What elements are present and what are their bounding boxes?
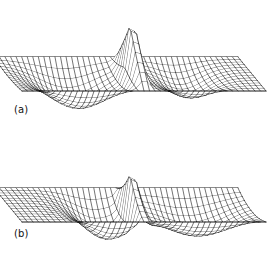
- panel-a-label: (a): [14, 104, 28, 115]
- surface-plot-a: [0, 0, 269, 126]
- panel-b-label: (b): [14, 228, 28, 239]
- panel-b: (b): [0, 127, 269, 253]
- figure-container: (a) (b): [0, 0, 269, 253]
- surface-plot-b: [0, 127, 269, 253]
- panel-a: (a): [0, 0, 269, 126]
